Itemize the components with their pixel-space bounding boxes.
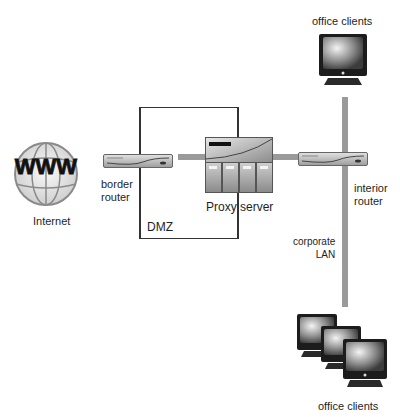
monitor-group-icon bbox=[296, 313, 388, 393]
proxy-server-icon bbox=[205, 137, 273, 193]
link-proxy-to-interior bbox=[272, 154, 300, 160]
dmz-label: DMZ bbox=[147, 221, 173, 234]
internet-label: Internet bbox=[33, 215, 70, 228]
www-globe-icon: WWW bbox=[10, 138, 82, 210]
proxy-server-label: Proxy server bbox=[206, 201, 273, 214]
office-clients-top-label: office clients bbox=[312, 15, 372, 28]
corporate-lan-backbone bbox=[342, 97, 348, 307]
interior-router-icon bbox=[298, 152, 368, 166]
svg-text:WWW: WWW bbox=[15, 154, 78, 179]
border-router-icon bbox=[103, 154, 173, 168]
monitor-icon bbox=[318, 33, 368, 87]
border-router-label: border router bbox=[101, 178, 133, 204]
office-clients-bottom-label: office clients bbox=[318, 400, 378, 413]
link-border-to-proxy bbox=[178, 154, 208, 160]
corporate-lan-label: corporate LAN bbox=[293, 235, 335, 261]
dmz-left-line bbox=[139, 107, 141, 239]
interior-router-label: interior router bbox=[354, 182, 388, 208]
